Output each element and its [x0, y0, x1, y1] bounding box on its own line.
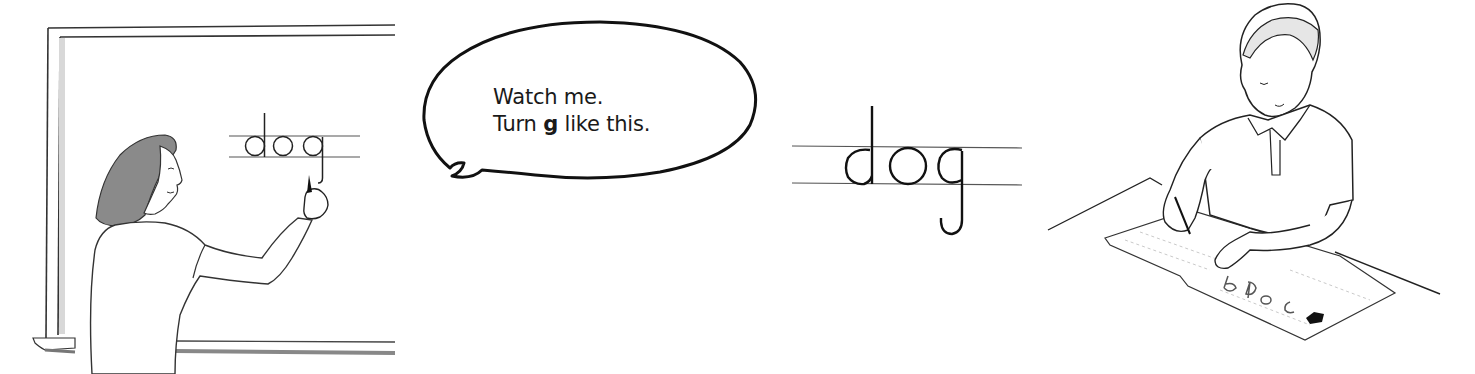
speech-line-2-prefix: Turn	[493, 112, 543, 136]
speech-bold-letter: g	[543, 112, 558, 136]
teacher-illustration	[0, 0, 400, 374]
model-word-dog	[780, 0, 1040, 374]
speech-line-1: Watch me.	[493, 84, 650, 111]
model-guide-lines	[792, 146, 1022, 185]
speech-bubble: Watch me. Turn g like this.	[410, 0, 770, 374]
model-word-drawing	[780, 0, 1040, 374]
speech-line-2-suffix: like this.	[558, 112, 650, 136]
chalkboard-drawing	[0, 0, 400, 374]
student-illustration	[1010, 0, 1475, 374]
speech-bubble-outline	[410, 0, 770, 374]
speech-bubble-text: Watch me. Turn g like this.	[493, 84, 650, 138]
board-word-dog	[246, 113, 323, 183]
student-drawing	[1010, 0, 1475, 374]
marker-icon	[307, 175, 312, 193]
speech-line-2: Turn g like this.	[493, 111, 650, 138]
model-letters	[846, 106, 962, 234]
worksheet	[1105, 210, 1395, 340]
teacher-hand	[304, 189, 328, 219]
